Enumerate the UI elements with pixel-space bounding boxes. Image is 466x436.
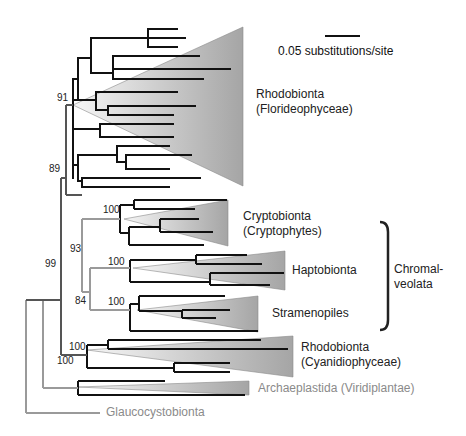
bootstrap-84: 84	[75, 295, 86, 306]
triangle-stramenopiles	[137, 296, 258, 332]
triangle-viridiplantae	[78, 381, 249, 395]
bootstrap-100-hapto: 100	[108, 256, 125, 267]
triangle-cyanidiophyceae	[87, 336, 293, 377]
label-florideophyceae: Rhodobionta (Florideophyceae)	[256, 87, 353, 117]
bootstrap-89: 89	[49, 163, 60, 174]
chromalveolata-bracket	[380, 222, 388, 330]
group-name-line2: veolata	[394, 277, 443, 292]
clade-subname: (Florideophyceae)	[256, 102, 353, 117]
scale-bar-label: 0.05 substitutions/site	[278, 44, 393, 58]
label-haptobionta: Haptobionta	[292, 263, 357, 278]
bootstrap-100-cyanidio-a: 100	[69, 341, 86, 352]
group-name-line1: Chromal-	[394, 262, 443, 277]
label-glaucocystobionta: Glaucocystobionta	[106, 405, 205, 420]
clade-name: Rhodobionta	[301, 340, 401, 355]
bootstrap-91: 91	[57, 92, 68, 103]
clade-subname: (Cyanidiophyceae)	[301, 355, 401, 370]
clade-name: Cryptobionta	[243, 209, 322, 224]
bootstrap-100-cyanidio-b: 100	[57, 355, 74, 366]
bootstrap-93: 93	[70, 243, 81, 254]
label-chromalveolata: Chromal- veolata	[394, 262, 443, 292]
phylogenetic-tree	[0, 0, 466, 436]
backbone-branches-dark	[26, 105, 87, 355]
label-cryptophytes: Cryptobionta (Cryptophytes)	[243, 209, 322, 239]
bootstrap-100-crypto: 100	[103, 204, 120, 215]
label-stramenopiles: Stramenopiles	[272, 306, 349, 321]
clade-subname: (Cryptophytes)	[243, 224, 322, 239]
bootstrap-100-strameno: 100	[108, 296, 125, 307]
clade-name: Rhodobionta	[256, 87, 353, 102]
bootstrap-99: 99	[45, 258, 56, 269]
triangle-cryptophytes	[124, 200, 228, 246]
label-cyanidiophyceae: Rhodobionta (Cyanidiophyceae)	[301, 340, 401, 370]
label-viridiplantae: Archaeplastida (Viridiplantae)	[258, 381, 415, 396]
